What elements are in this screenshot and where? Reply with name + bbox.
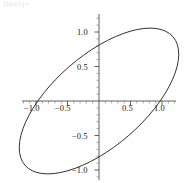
x-tick-label-pos-0-5: 0.5 xyxy=(122,103,133,113)
plot-figure: Out[2]= xyxy=(0,0,187,183)
y-tick-label-pos-1-0: 1.0 xyxy=(77,27,88,37)
x-tick-label-pos-1-0: 1.0 xyxy=(154,103,165,113)
data-curve-ellipse xyxy=(0,2,187,183)
x-tick-label-neg-1-0: −1.0 xyxy=(24,103,39,113)
x-tick-label-neg-0-5: −0.5 xyxy=(55,103,70,113)
y-tick-label-neg-0-5: −0.5 xyxy=(72,131,87,141)
y-tick-label-neg-1-0: −1.0 xyxy=(72,165,87,175)
plot-canvas xyxy=(0,0,187,183)
y-tick-label-pos-0-5: 0.5 xyxy=(77,62,88,72)
